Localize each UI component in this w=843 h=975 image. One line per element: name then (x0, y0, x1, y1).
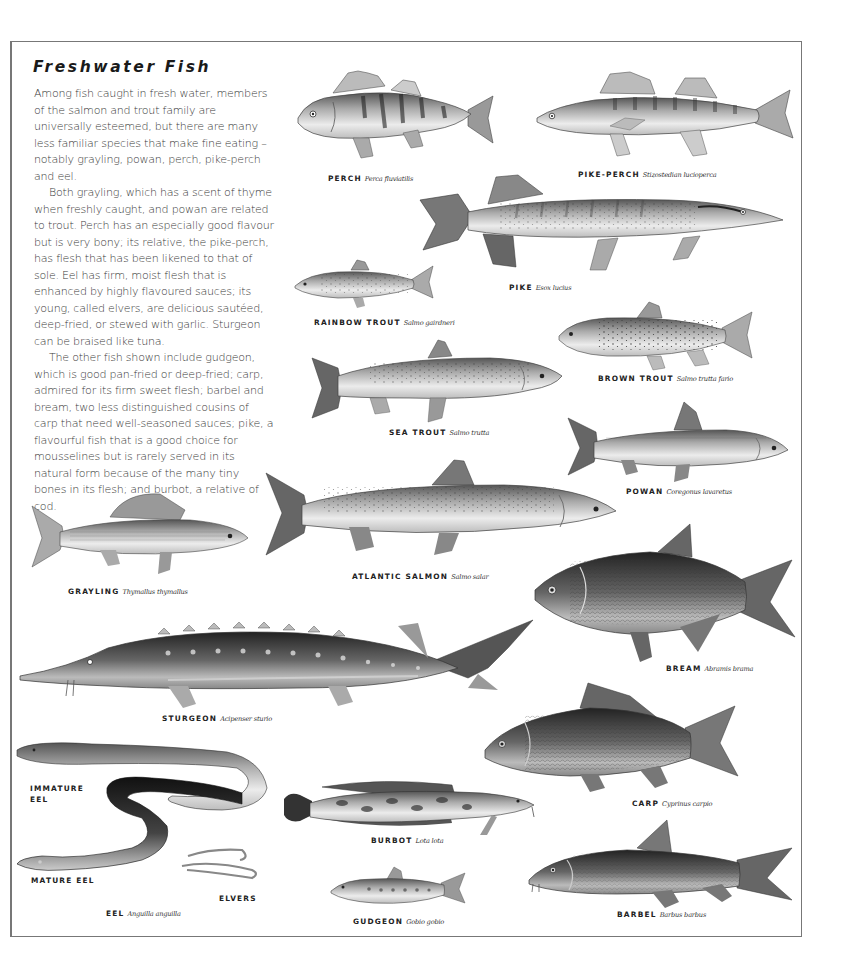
barbel-illustration (527, 818, 795, 903)
sea-trout-illustration (310, 338, 565, 428)
pike-label: PIKEEsox lucius (509, 283, 571, 292)
bream-illustration (530, 522, 795, 667)
page-title: Freshwater Fish (33, 58, 211, 76)
carp-label: CARPCyprinus carpio (632, 799, 712, 808)
eel-illustration (12, 738, 272, 888)
intro-paragraph-2: Both grayling, which has a scent of thym… (34, 185, 274, 350)
perch-label: PERCHPerca fluviatilis (328, 174, 413, 183)
sturgeon-label: STURGEONAcipenser sturio (162, 714, 272, 723)
gudgeon-illustration (329, 865, 469, 910)
burbot-illustration (282, 775, 537, 840)
barbel-label: BARBELBarbus barbus (617, 910, 706, 919)
intro-paragraph-1: Among fish caught in fresh water, member… (34, 86, 274, 185)
perch-illustration (293, 68, 498, 163)
elvers-label: ELVERS (219, 893, 257, 904)
intro-paragraph-3: The other fish shown include gudgeon, wh… (34, 350, 274, 515)
burbot-label: BURBOTLota lota (371, 836, 443, 845)
sturgeon-illustration (18, 618, 538, 708)
pike-illustration (418, 172, 788, 277)
eel-label: EELAnguilla anguilla (106, 909, 181, 918)
mature-eel-label: MATURE EEL (31, 875, 95, 886)
powan-label: POWANCoregonus lavaretus (626, 487, 732, 496)
gudgeon-label: GUDGEONGobio gobio (353, 917, 444, 926)
brown-trout-label: BROWN TROUTSalmo trutta fario (598, 374, 733, 383)
bream-label: BREAMAbramis brama (666, 664, 753, 673)
grayling-illustration (30, 492, 252, 577)
pike-perch-illustration (535, 68, 797, 163)
intro-text: Among fish caught in fresh water, member… (34, 86, 274, 515)
immature-eel-label: IMMATURE EEL (30, 783, 84, 805)
rainbow-trout-label: RAINBOW TROUTSalmo gairdneri (314, 318, 455, 327)
sea-trout-label: SEA TROUTSalmo trutta (389, 428, 489, 437)
grayling-label: GRAYLINGThymallus thymallus (68, 587, 188, 596)
rainbow-trout-illustration (293, 258, 435, 308)
brown-trout-illustration (557, 300, 757, 370)
atlantic-salmon-label: ATLANTIC SALMONSalmo salar (352, 572, 488, 581)
